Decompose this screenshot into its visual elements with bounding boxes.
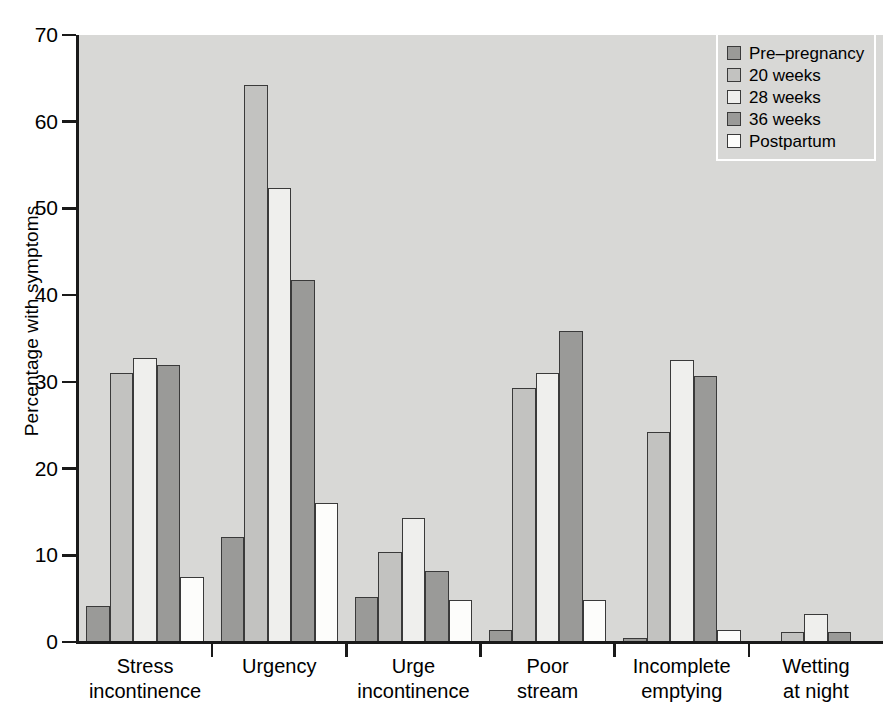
bar: [355, 597, 379, 642]
legend-item-label: Pre–pregnancy: [749, 45, 864, 62]
category-label-line: Stress: [78, 654, 212, 679]
legend-item-label: 28 weeks: [749, 89, 821, 106]
y-axis-tick-label: 70: [2, 24, 58, 45]
y-axis-tick-label: 30: [2, 371, 58, 392]
legend-swatch-icon: [727, 90, 741, 104]
y-axis-tick-label: 10: [2, 544, 58, 565]
category-label-line: Urge: [346, 654, 480, 679]
y-axis-tick-label: 60: [2, 111, 58, 132]
bar: [402, 518, 426, 642]
y-axis-tick-label: 0: [2, 631, 58, 652]
x-axis-category-label: Incompleteemptying: [615, 654, 749, 704]
category-label-line: Incomplete: [615, 654, 749, 679]
y-axis-tick-labels: 010203040506070: [0, 0, 58, 716]
bar: [425, 571, 449, 642]
bar: [670, 360, 694, 642]
bar: [291, 280, 315, 642]
bar: [536, 373, 560, 642]
y-axis-tick-label: 50: [2, 197, 58, 218]
y-axis-tick: [62, 34, 76, 37]
bar: [449, 600, 473, 642]
y-axis-tick-label: 40: [2, 284, 58, 305]
y-axis-tick: [62, 554, 76, 557]
y-axis-tick: [62, 120, 76, 123]
legend-item: 20 weeks: [727, 64, 864, 86]
legend-item: Postpartum: [727, 130, 864, 152]
bar-chart: Percentage with symptoms 010203040506070…: [0, 0, 883, 716]
y-axis-tick: [62, 294, 76, 297]
x-axis-category-label: Poorstream: [481, 654, 615, 704]
category-label-line: Poor: [481, 654, 615, 679]
legend-item-label: 20 weeks: [749, 67, 821, 84]
bar: [378, 552, 402, 642]
legend: Pre–pregnancy20 weeks28 weeks36 weeksPos…: [716, 33, 876, 161]
legend-item-label: Postpartum: [749, 133, 836, 150]
bar: [268, 188, 292, 642]
bar: [559, 331, 583, 642]
y-axis-tick: [62, 467, 76, 470]
category-label-line: at night: [749, 679, 883, 704]
bar: [133, 358, 157, 642]
bar: [221, 537, 245, 642]
category-label-line: incontinence: [78, 679, 212, 704]
bar: [512, 388, 536, 642]
bar: [583, 600, 607, 642]
legend-item-label: 36 weeks: [749, 111, 821, 128]
legend-swatch-icon: [727, 112, 741, 126]
bar: [86, 606, 110, 642]
bar: [244, 85, 268, 642]
bar: [315, 503, 339, 642]
y-axis-tick: [62, 381, 76, 384]
bar: [180, 577, 204, 642]
category-label-line: incontinence: [346, 679, 480, 704]
legend-item: 36 weeks: [727, 108, 864, 130]
x-axis-category-label: Stressincontinence: [78, 654, 212, 704]
y-axis-tick: [62, 207, 76, 210]
legend-swatch-icon: [727, 46, 741, 60]
bar: [647, 432, 671, 642]
category-label-line: emptying: [615, 679, 749, 704]
y-axis-tick: [62, 641, 76, 644]
legend-swatch-icon: [727, 134, 741, 148]
y-axis-tick-label: 20: [2, 458, 58, 479]
legend-item: 28 weeks: [727, 86, 864, 108]
x-axis-category-label: Wettingat night: [749, 654, 883, 704]
x-axis-category-label: Urgeincontinence: [346, 654, 480, 704]
category-label-line: Wetting: [749, 654, 883, 679]
category-label-line: stream: [481, 679, 615, 704]
bar: [694, 376, 718, 642]
bar: [110, 373, 134, 642]
bar: [804, 614, 828, 642]
bar: [157, 365, 181, 642]
y-axis-line: [76, 35, 79, 643]
legend-swatch-icon: [727, 68, 741, 82]
category-label-line: Urgency: [212, 654, 346, 679]
legend-item: Pre–pregnancy: [727, 42, 864, 64]
x-axis-category-label: Urgency: [212, 654, 346, 679]
